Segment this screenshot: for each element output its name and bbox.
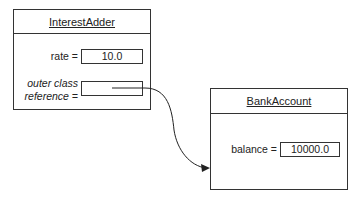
reference-arrow (0, 0, 360, 198)
